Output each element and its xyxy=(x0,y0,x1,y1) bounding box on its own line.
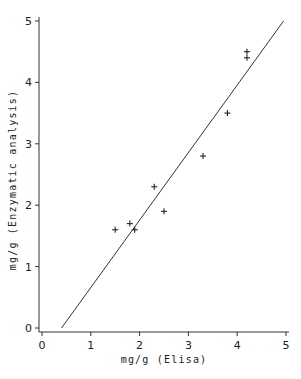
x-tick-label: 5 xyxy=(283,339,290,352)
x-tick-label: 0 xyxy=(39,339,46,352)
y-tick-label: 1 xyxy=(25,261,32,274)
x-tick-label: 4 xyxy=(234,339,241,352)
data-point-plus-marker xyxy=(151,184,157,190)
y-tick-label: 2 xyxy=(25,199,32,212)
x-tick-label: 1 xyxy=(87,339,94,352)
y-tick-label: 3 xyxy=(25,138,32,151)
data-point-plus-marker xyxy=(127,221,133,227)
scatter-chart: 012345 012345 mg/g (Elisa) mg/g (Enzymat… xyxy=(0,0,301,379)
data-point-plus-marker xyxy=(244,55,250,61)
y-axis: 012345 xyxy=(25,15,39,335)
x-tick-label: 3 xyxy=(185,339,192,352)
x-tick-label: 2 xyxy=(136,339,143,352)
plot-area xyxy=(62,21,284,328)
data-point-plus-marker xyxy=(132,227,138,233)
data-point-plus-marker xyxy=(161,208,167,214)
y-axis-title: mg/g (Enzymatic analysis) xyxy=(7,90,18,271)
x-axis-title: mg/g (Elisa) xyxy=(121,354,208,365)
data-point-plus-marker xyxy=(244,49,250,55)
y-tick-label: 5 xyxy=(25,15,32,28)
data-point-plus-marker xyxy=(112,227,118,233)
y-tick-label: 4 xyxy=(25,76,32,89)
y-tick-label: 0 xyxy=(25,322,32,335)
x-axis: 012345 xyxy=(39,332,290,352)
data-point-plus-marker xyxy=(224,110,230,116)
regression-line xyxy=(62,21,284,328)
data-point-plus-marker xyxy=(200,153,206,159)
